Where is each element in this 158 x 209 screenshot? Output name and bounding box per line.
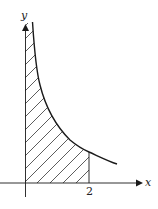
decreasing-curve bbox=[33, 22, 118, 164]
y-axis-label: y bbox=[20, 9, 28, 22]
diagram-canvas: y x 2 bbox=[0, 0, 158, 209]
x-axis-arrow-icon bbox=[136, 180, 143, 187]
x-tick-label-2: 2 bbox=[86, 185, 93, 198]
x-axis-label: x bbox=[145, 176, 152, 189]
y-axis-arrow-icon bbox=[22, 24, 29, 31]
